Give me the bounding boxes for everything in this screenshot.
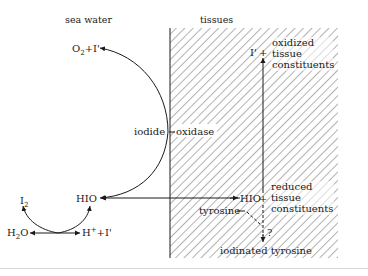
svg-text:constituents: constituents (271, 203, 333, 214)
plus-mid: + (259, 193, 267, 204)
tyrosine-label: tyrosine (199, 205, 240, 216)
iodine-cycle-diagram: sea water tissues O2+I' iodide oxidase H… (0, 0, 368, 276)
arrow-oxidase-to-o2 (100, 48, 168, 132)
hio-right-node: HIO (240, 193, 261, 204)
svg-text:reduced: reduced (271, 181, 313, 192)
arrow-oxidase-to-hio (100, 132, 168, 198)
h-plus-iodide-node: H++I' (82, 226, 112, 238)
iodide-top-node: I' (250, 47, 257, 58)
question-mark: ? (267, 227, 272, 238)
tissues-label: tissues (200, 14, 233, 25)
iodide-label: iodide (134, 126, 165, 137)
hio-left-node: HIO (76, 193, 97, 204)
iodinated-tyrosine-node: iodinated tyrosine (220, 245, 312, 256)
svg-text:tissue: tissue (272, 48, 302, 59)
reduced-tissue-constituents: reduced tissue constituents (270, 181, 334, 215)
sea-water-label: sea water (65, 14, 112, 25)
plus-top: + (259, 47, 267, 58)
bottom-divider (0, 268, 368, 269)
oxidase-label: oxidase (176, 126, 214, 137)
i2-node: I2 (20, 195, 28, 209)
svg-text:constituents: constituents (272, 59, 334, 70)
h2o-node: H2O (7, 227, 28, 241)
o2-iodide-node: O2+I' (72, 43, 100, 57)
svg-text:tissue: tissue (271, 192, 301, 203)
svg-text:oxidized: oxidized (272, 37, 315, 48)
oxidized-tissue-constituents: oxidized tissue constituents (271, 37, 334, 71)
